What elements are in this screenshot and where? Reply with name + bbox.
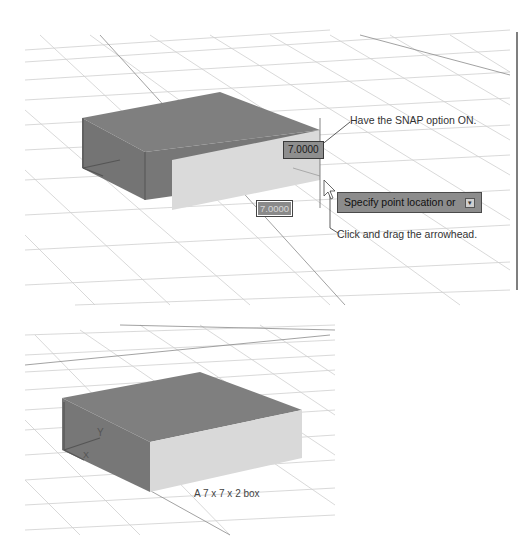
figure-caption: A 7 x 7 x 2 box xyxy=(194,488,260,499)
length-dimension-input[interactable]: 7.0000 xyxy=(256,200,293,217)
command-prompt-text: Specify point location or xyxy=(344,196,455,209)
leader-lines xyxy=(320,122,350,233)
callout-drag-arrowhead: Click and drag the arrowhead. xyxy=(337,228,477,240)
grid-and-box-drawing-bottom: Y X xyxy=(0,310,340,540)
arrow-cursor-icon xyxy=(324,180,335,199)
ucs-y-label: Y xyxy=(97,427,104,438)
callout-snap-option: Have the SNAP option ON. xyxy=(350,114,476,126)
ucs-x-label: X xyxy=(83,450,89,460)
command-prompt-tooltip[interactable]: Specify point location or ▾ xyxy=(337,192,482,213)
length-dimension-value: 7.0000 xyxy=(258,202,291,215)
down-arrow-icon[interactable]: ▾ xyxy=(465,198,475,208)
bottom-figure-viewport: Y X A 7 x 7 x 2 box xyxy=(0,310,340,540)
height-dimension-input[interactable]: 7.0000 xyxy=(283,141,324,159)
grid-and-box-drawing xyxy=(0,0,523,310)
top-figure-viewport: Have the SNAP option ON. 7.0000 7.0000 S… xyxy=(0,0,523,310)
